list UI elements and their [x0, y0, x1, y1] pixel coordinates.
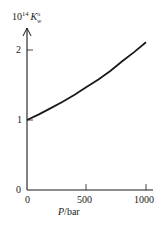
data-curve: [27, 42, 146, 120]
y-tick-label-0: 0: [16, 184, 21, 195]
x-tick-label-0: 0: [25, 194, 30, 205]
y-tick-label-1: 1: [17, 114, 22, 125]
y-tick-label-2: 2: [16, 44, 21, 55]
x-axis-label: P/bar: [58, 206, 80, 217]
x-tick-label-1000: 1000: [134, 194, 154, 205]
y-axis-label: 1014 Kwo: [12, 10, 40, 22]
x-tick-label-500: 500: [77, 194, 92, 205]
